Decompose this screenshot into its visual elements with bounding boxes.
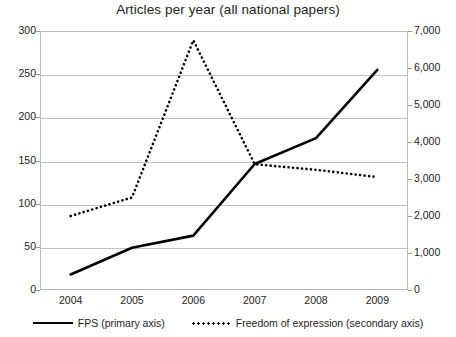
left-axis-tick-mark: [36, 204, 40, 205]
left-axis-tick-mark: [36, 117, 40, 118]
x-axis-tick-label: 2009: [353, 294, 401, 306]
left-axis-tick-mark: [36, 31, 40, 32]
solid-line-swatch-icon: [33, 322, 73, 324]
left-axis-tick-mark: [36, 290, 40, 291]
right-axis-tick-label: 5,000: [414, 99, 454, 110]
chart-title: Articles per year (all national papers): [0, 2, 456, 17]
x-axis-tick-label: 2006: [169, 294, 217, 306]
right-axis-tick-mark: [408, 216, 412, 217]
legend-item-freedom-of-expression[interactable]: Freedom of expression (secondary axis): [191, 317, 423, 329]
gridline: [41, 248, 407, 249]
legend-item-fps[interactable]: FPS (primary axis): [33, 317, 165, 329]
right-axis-tick-label: 3,000: [414, 173, 454, 184]
right-axis-tick-label: 4,000: [414, 136, 454, 147]
right-axis-tick-label: 7,000: [414, 25, 454, 36]
gridline: [41, 118, 407, 119]
right-axis-tick-mark: [408, 253, 412, 254]
left-axis-tick-label: 150: [2, 155, 36, 166]
gridline: [41, 75, 407, 76]
left-axis-tick-label: 50: [2, 241, 36, 252]
gridline: [41, 205, 407, 206]
left-axis-tick-mark: [36, 161, 40, 162]
chart-legend: FPS (primary axis) Freedom of expression…: [0, 313, 456, 333]
right-axis-tick-mark: [408, 179, 412, 180]
left-axis-tick-label: 0: [2, 284, 36, 295]
right-axis-tick-label: 0: [414, 284, 454, 295]
right-axis-tick-mark: [408, 31, 412, 32]
x-axis-tick-label: 2005: [108, 294, 156, 306]
left-axis-tick-mark: [36, 74, 40, 75]
right-axis-tick-mark: [408, 142, 412, 143]
left-axis-tick-label: 300: [2, 25, 36, 36]
legend-label-freedom-of-expression: Freedom of expression (secondary axis): [236, 317, 423, 329]
left-axis-tick-label: 200: [2, 111, 36, 122]
right-axis-tick-mark: [408, 68, 412, 69]
legend-label-fps: FPS (primary axis): [78, 317, 165, 329]
x-axis-tick-label: 2004: [47, 294, 95, 306]
dotted-line-swatch-icon: [191, 322, 231, 325]
x-axis-tick-label: 2008: [292, 294, 340, 306]
right-axis-tick-label: 2,000: [414, 210, 454, 221]
gridline: [41, 162, 407, 163]
chart-container: Articles per year (all national papers) …: [0, 0, 456, 337]
left-axis-tick-label: 250: [2, 68, 36, 79]
x-axis-tick-label: 2007: [231, 294, 279, 306]
right-axis-tick-label: 1,000: [414, 247, 454, 258]
right-axis-tick-mark: [408, 105, 412, 106]
plot-area: [40, 31, 408, 290]
left-axis-tick-mark: [36, 247, 40, 248]
right-axis-tick-mark: [408, 290, 412, 291]
right-axis-tick-label: 6,000: [414, 62, 454, 73]
left-axis-tick-label: 100: [2, 198, 36, 209]
